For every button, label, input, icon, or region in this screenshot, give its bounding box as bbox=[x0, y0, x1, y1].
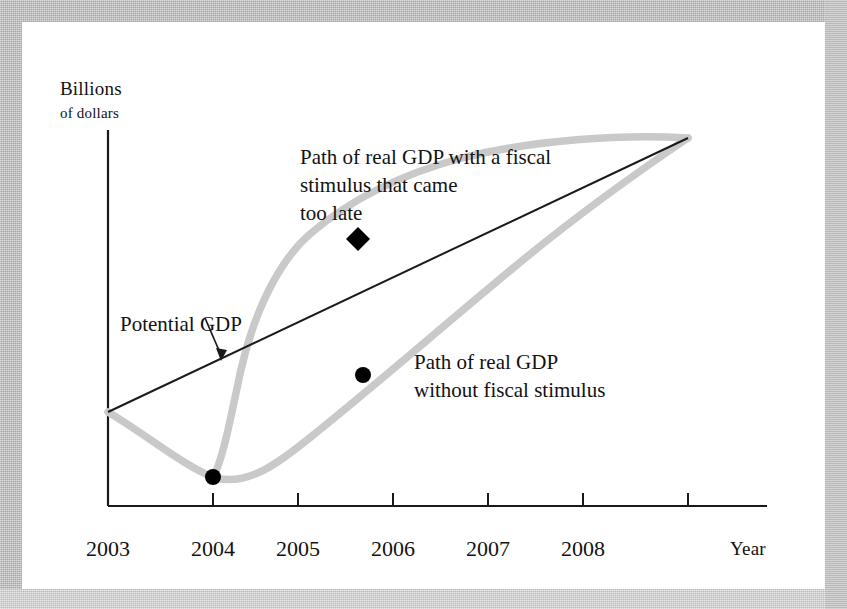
annotation-without-stimulus: Path of real GDP without fiscal stimulus bbox=[414, 348, 605, 404]
annotation-with-stimulus-line3: too late bbox=[300, 199, 551, 227]
no-stimulus-marker bbox=[355, 367, 371, 383]
x-axis-label: Year bbox=[730, 538, 766, 560]
figure-frame: Billions of dollars Year 2003 2004 2005 … bbox=[0, 0, 847, 609]
tick-label-2003: 2003 bbox=[68, 536, 148, 562]
annotation-with-stimulus-line2: stimulus that came bbox=[300, 171, 551, 199]
annotation-with-stimulus: Path of real GDP with a fiscal stimulus … bbox=[300, 143, 551, 227]
y-axis-label-line2: of dollars bbox=[60, 104, 119, 122]
frame-right-band bbox=[825, 0, 847, 609]
y-axis-label-line1: Billions bbox=[60, 78, 122, 100]
annotation-without-stimulus-line2: without fiscal stimulus bbox=[414, 376, 605, 404]
x-axis-ticks bbox=[213, 493, 688, 506]
frame-bottom-band bbox=[0, 589, 847, 609]
tick-label-2007: 2007 bbox=[448, 536, 528, 562]
stimulus-marker bbox=[346, 227, 370, 251]
tick-label-2005: 2005 bbox=[258, 536, 338, 562]
annotation-without-stimulus-line1: Path of real GDP bbox=[414, 348, 605, 376]
tick-label-2008: 2008 bbox=[543, 536, 623, 562]
trough-marker bbox=[205, 469, 221, 485]
tick-label-2006: 2006 bbox=[353, 536, 433, 562]
annotation-with-stimulus-line1: Path of real GDP with a fiscal bbox=[300, 143, 551, 171]
chart-panel: Billions of dollars Year 2003 2004 2005 … bbox=[22, 22, 825, 589]
tick-label-2004: 2004 bbox=[173, 536, 253, 562]
annotation-potential-gdp: Potential GDP bbox=[120, 310, 242, 338]
gdp-fiscal-stimulus-chart bbox=[22, 22, 825, 589]
